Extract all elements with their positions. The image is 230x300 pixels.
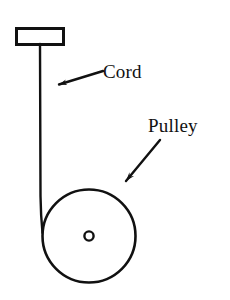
ceiling-bracket [17, 29, 64, 45]
pulley-label: Pulley [148, 115, 198, 136]
cord-label: Cord [103, 61, 142, 82]
pulley-leader-arrow [126, 140, 160, 181]
cord-line [40, 44, 43, 233]
pulley-hub [84, 231, 93, 240]
diagram-canvas: Cord Pulley [0, 0, 230, 300]
cord-leader-arrow [59, 71, 103, 85]
pulley-diagram: Cord Pulley [0, 0, 230, 300]
